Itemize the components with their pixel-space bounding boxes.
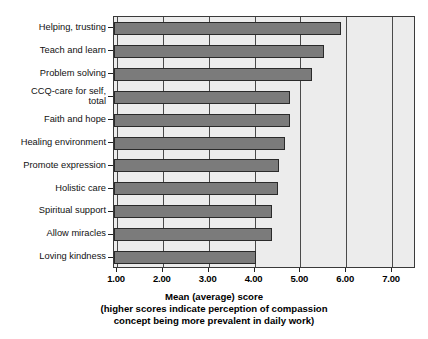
value-axis: 1.002.003.004.005.006.007.00 — [113, 268, 415, 290]
axis-title: Mean (average) score (higher scores indi… — [0, 291, 428, 328]
bar — [114, 182, 278, 195]
category-axis: Helping, trustingTeach and learnProblem … — [0, 16, 113, 268]
category-label: Healing environment — [21, 137, 106, 148]
category-label: Faith and hope — [44, 114, 106, 125]
category-label: Allow miracles — [47, 228, 106, 239]
value-tick — [208, 268, 209, 272]
bar — [114, 22, 341, 35]
axis-title-main: Mean (average) score — [0, 291, 428, 303]
bar — [114, 68, 312, 81]
category-label-line: Healing environment — [21, 137, 106, 148]
value-tick — [345, 268, 346, 272]
gridline — [346, 17, 347, 267]
axis-title-note-line-1: (higher scores indicate perception of co… — [0, 303, 428, 315]
value-tick — [391, 268, 392, 272]
bar — [114, 114, 290, 127]
category-label: Teach and learn — [40, 45, 106, 56]
bar — [114, 137, 285, 150]
value-tick-label: 6.00 — [336, 273, 354, 284]
category-label-line: total — [31, 96, 106, 107]
category-label-line: CCQ-care for self, — [31, 86, 106, 97]
category-label-line: Spiritual support — [39, 205, 106, 216]
category-label: Helping, trusting — [39, 22, 106, 33]
bar — [114, 251, 256, 264]
plot-area — [113, 16, 415, 268]
category-label-line: Holistic care — [55, 183, 106, 194]
bar — [114, 205, 272, 218]
category-label-line: Helping, trusting — [39, 22, 106, 33]
category-label-line: Loving kindness — [39, 251, 106, 262]
bar-chart: Helping, trustingTeach and learnProblem … — [0, 0, 428, 339]
category-label: CCQ-care for self,total — [31, 86, 106, 107]
axis-title-note-line-2: concept being more prevalent in daily wo… — [0, 315, 428, 327]
category-label: Promote expression — [23, 160, 106, 171]
value-tick — [254, 268, 255, 272]
category-label-line: Faith and hope — [44, 114, 106, 125]
value-tick — [299, 268, 300, 272]
value-tick-label: 7.00 — [382, 273, 400, 284]
category-label: Problem solving — [40, 68, 106, 79]
value-tick — [162, 268, 163, 272]
bar — [114, 45, 324, 58]
value-tick — [116, 268, 117, 272]
category-label-line: Teach and learn — [40, 45, 106, 56]
gridline — [392, 17, 393, 267]
category-label: Holistic care — [55, 183, 106, 194]
bar — [114, 91, 290, 104]
category-label: Spiritual support — [39, 205, 106, 216]
value-tick-label: 3.00 — [199, 273, 217, 284]
category-label: Loving kindness — [39, 251, 106, 262]
category-label-line: Promote expression — [23, 160, 106, 171]
category-label-line: Problem solving — [40, 68, 106, 79]
bar — [114, 228, 272, 241]
value-tick-label: 4.00 — [245, 273, 263, 284]
bar — [114, 159, 279, 172]
value-tick-label: 2.00 — [153, 273, 171, 284]
value-tick-label: 5.00 — [290, 273, 308, 284]
value-tick-label: 1.00 — [107, 273, 125, 284]
category-label-line: Allow miracles — [47, 228, 106, 239]
